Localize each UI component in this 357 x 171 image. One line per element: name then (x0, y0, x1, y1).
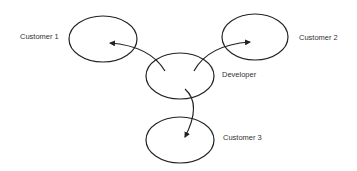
label-customer-2: Customer 2 (299, 33, 338, 42)
diagram-svg (0, 0, 357, 171)
arrow-developer-to-customer2 (194, 42, 250, 71)
label-developer: Developer (222, 70, 256, 79)
diagram-canvas: Customer 1 Customer 2 Developer Customer… (0, 0, 357, 171)
arrow-developer-to-customer1 (110, 43, 165, 71)
node-ellipse-customer3 (146, 117, 214, 163)
node-ellipse-customer1 (69, 16, 137, 62)
label-customer-1: Customer 1 (20, 32, 59, 41)
node-ellipse-customer2 (222, 14, 288, 60)
arrow-developer-to-customer3 (185, 89, 194, 137)
label-customer-3: Customer 3 (223, 133, 262, 142)
